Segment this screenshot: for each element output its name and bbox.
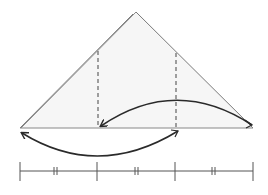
triangle-shape	[20, 12, 253, 128]
divided-segment	[20, 162, 253, 181]
lower-arc-arrow	[22, 131, 178, 156]
folded-triangle-diagram	[0, 0, 268, 195]
diagram-canvas	[0, 0, 268, 195]
